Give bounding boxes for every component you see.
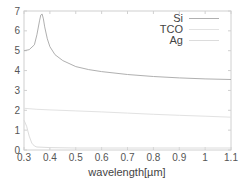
y-tick-label: 1 [14, 125, 20, 136]
series-line-ag [24, 120, 231, 148]
y-tick-label: 2 [14, 105, 20, 116]
series-line-tco [24, 108, 231, 117]
line-chart: 01234567 0.30.40.50.60.70.80.911.1 wavel… [0, 0, 249, 189]
series-line-si [24, 14, 231, 80]
y-tick-label: 7 [14, 6, 20, 17]
x-tick-label: 1.1 [224, 152, 238, 163]
data-series [24, 14, 231, 148]
x-tick-label: 0.4 [43, 152, 57, 163]
x-tick-label: 0.7 [121, 152, 135, 163]
x-tick-label: 0.3 [17, 152, 31, 163]
legend-label-ag: Ag [170, 34, 183, 46]
x-tick-label: 0.5 [69, 152, 83, 163]
x-axis-label: wavelength[µm] [87, 166, 165, 178]
plot-frame [24, 11, 231, 150]
y-tick-label: 3 [14, 85, 20, 96]
legend: Si TCO Ag [160, 12, 219, 46]
x-tick-label: 0.9 [172, 152, 186, 163]
y-tick-label: 6 [14, 25, 20, 36]
x-tick-label: 0.6 [95, 152, 109, 163]
x-tick-label: 1 [202, 152, 208, 163]
x-tick-label: 0.8 [146, 152, 160, 163]
x-axis-ticks: 0.30.40.50.60.70.80.911.1 [17, 11, 238, 163]
y-tick-label: 4 [14, 65, 20, 76]
y-tick-label: 5 [14, 45, 20, 56]
y-axis-ticks: 01234567 [14, 6, 231, 156]
